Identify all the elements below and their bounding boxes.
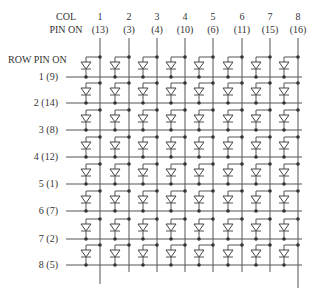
diode-icon	[223, 169, 233, 176]
row-junction-dot	[169, 237, 173, 241]
anode-wire	[143, 83, 157, 88]
diode-icon	[81, 250, 91, 257]
led-cell	[166, 108, 187, 132]
anode-wire	[284, 137, 298, 142]
column-junction-dot	[183, 108, 187, 112]
column-pin: (16)	[290, 24, 307, 36]
led-cell	[138, 189, 159, 213]
row-junction-dot	[84, 182, 88, 186]
row-junction-dot	[113, 128, 117, 132]
row-junction-dot	[282, 155, 286, 159]
row-junction-dot	[113, 75, 117, 79]
column-pin: (11)	[234, 24, 250, 36]
diode-icon	[223, 224, 233, 231]
anode-wire	[199, 110, 213, 115]
diode-icon	[194, 88, 204, 95]
anode-wire	[171, 245, 185, 250]
led-cell	[138, 81, 159, 105]
led-cell	[138, 243, 159, 267]
column-junction-dot	[183, 81, 187, 85]
row-label: 1 (9)	[39, 71, 58, 83]
column-junction-dot	[296, 135, 300, 139]
column-junction-dot	[268, 243, 272, 247]
row-junction-dot	[141, 101, 145, 105]
row-labels: 1 (9)2 (14)3 (8)4 (12)5 (1)6 (7)7 (2)8 (…	[34, 71, 58, 271]
led-cell	[81, 217, 102, 241]
anode-wire	[115, 110, 129, 115]
diode-icon	[110, 169, 120, 176]
anode-wire	[228, 110, 242, 115]
anode-wire	[143, 57, 157, 62]
anode-wire	[284, 191, 298, 196]
column-junction-dot	[211, 243, 215, 247]
row-junction-dot	[282, 101, 286, 105]
diode-icon	[194, 224, 204, 231]
row-junction-dot	[169, 128, 173, 132]
led-cell	[194, 162, 215, 186]
column-junction-dot	[211, 189, 215, 193]
diode-icon	[138, 169, 148, 176]
column-junction-dot	[296, 81, 300, 85]
column-pin: (3)	[123, 24, 135, 36]
column-number: 6	[240, 11, 245, 22]
anode-wire	[199, 191, 213, 196]
row-junction-dot	[169, 75, 173, 79]
column-junction-dot	[268, 55, 272, 59]
column-number: 4	[183, 11, 188, 22]
led-cell	[194, 81, 215, 105]
column-number: 8	[296, 11, 301, 22]
anode-wire	[115, 245, 129, 250]
diode-icon	[223, 88, 233, 95]
column-number: 3	[155, 11, 160, 22]
led-cell	[138, 135, 159, 159]
led-cell	[110, 243, 131, 267]
column-junction-dot	[155, 217, 159, 221]
row-label: 5 (1)	[39, 178, 58, 190]
led-cell	[251, 217, 272, 241]
led-cell	[194, 135, 215, 159]
diode-icon	[138, 88, 148, 95]
diode-icon	[110, 250, 120, 257]
led-cell	[81, 81, 102, 105]
column-pin: (13)	[92, 24, 109, 36]
anode-wire	[115, 57, 129, 62]
row-junction-dot	[141, 128, 145, 132]
diode-icon	[110, 224, 120, 231]
row-junction-dot	[169, 182, 173, 186]
row-label: 2 (14)	[34, 97, 58, 109]
anode-wire	[199, 83, 213, 88]
led-cell	[251, 135, 272, 159]
anode-wire	[256, 245, 270, 250]
row-junction-dot	[282, 182, 286, 186]
column-junction-dot	[268, 81, 272, 85]
anode-wire	[199, 57, 213, 62]
anode-wire	[143, 219, 157, 224]
column-junction-dot	[183, 162, 187, 166]
row-junction-dot	[226, 155, 230, 159]
led-cell	[110, 55, 131, 79]
column-junction-dot	[211, 81, 215, 85]
led-cell	[279, 108, 300, 132]
column-junction-dot	[296, 189, 300, 193]
anode-wire	[86, 191, 100, 196]
column-number: 1	[98, 11, 103, 22]
diode-icon	[110, 142, 120, 149]
anode-wire	[143, 191, 157, 196]
column-junction-dot	[183, 217, 187, 221]
diode-icon	[251, 196, 261, 203]
row-junction-dot	[254, 209, 258, 213]
led-cell	[166, 162, 187, 186]
row-junction-dot	[226, 263, 230, 267]
column-junction-dot	[296, 243, 300, 247]
row-junction-dot	[84, 155, 88, 159]
row-junction-dot	[197, 155, 201, 159]
anode-wire	[171, 219, 185, 224]
row-junction-dot	[254, 237, 258, 241]
column-junction-dot	[268, 108, 272, 112]
row-junction-dot	[197, 75, 201, 79]
led-cell	[223, 55, 244, 79]
anode-wire	[228, 219, 242, 224]
column-junction-dot	[268, 135, 272, 139]
led-cell	[166, 55, 187, 79]
column-junction-dot	[127, 81, 131, 85]
